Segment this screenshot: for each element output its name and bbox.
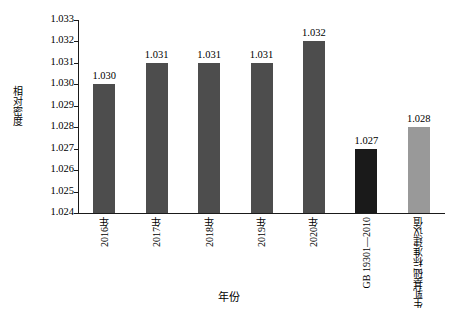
x-axis-tick-label-line: 标准建议值: [413, 217, 424, 267]
x-axis-line: [78, 213, 445, 214]
bar: 1.027: [355, 149, 377, 213]
y-axis-tick-label: 1.026: [50, 163, 74, 174]
bar: 1.031: [146, 63, 168, 213]
y-axis-tick-label: 1.028: [50, 120, 74, 131]
bar: 1.032: [303, 41, 325, 213]
bar-value-label: 1.031: [197, 49, 221, 60]
x-axis-tick-label: GB 19301—2010: [361, 217, 372, 288]
y-axis-tick-label: 1.030: [50, 77, 74, 88]
plot-area: 1.0331.0321.0311.0301.0291.0281.0271.026…: [78, 20, 445, 213]
x-axis-tick-label: 2020年: [308, 217, 319, 247]
y-axis-tick-mark: [74, 84, 79, 85]
y-axis-tick-label: 1.032: [50, 34, 74, 45]
x-axis-tick-label: 2017年: [151, 217, 162, 247]
y-axis-tick-mark: [74, 41, 79, 42]
y-axis-tick-mark: [74, 63, 79, 64]
y-axis-tick-label: 1.031: [50, 56, 74, 67]
y-axis-tick-label: 1.033: [50, 13, 74, 24]
bar-value-label: 1.031: [145, 49, 169, 60]
bar: 1.031: [198, 63, 220, 213]
bar-value-label: 1.028: [407, 113, 431, 124]
x-axis-tick-label: 2019年: [256, 217, 267, 247]
y-axis-tick-mark: [74, 192, 79, 193]
x-axis-title: 年份: [0, 288, 458, 304]
x-axis-tick-label: 2018年: [204, 217, 215, 247]
y-axis-tick-label: 1.029: [50, 99, 74, 110]
bar: 1.028: [408, 127, 430, 213]
chart-figure: 相对密度 1.0331.0321.0311.0301.0291.0281.027…: [0, 0, 458, 319]
bar: 1.031: [251, 63, 273, 213]
bar: 1.030: [93, 84, 115, 213]
y-axis-title: 相对密度: [6, 86, 22, 126]
bar-value-label: 1.032: [302, 27, 326, 38]
bar-value-label: 1.031: [250, 49, 274, 60]
y-axis-tick-mark: [74, 106, 79, 107]
y-axis-tick-label: 1.024: [50, 206, 74, 217]
y-axis-tick-label: 1.027: [50, 142, 74, 153]
x-axis-tick-label: 2016年: [99, 217, 110, 247]
y-axis-line: [78, 20, 79, 213]
y-axis-tick-mark: [74, 20, 79, 21]
y-axis-tick-mark: [74, 213, 79, 214]
bar-value-label: 1.030: [92, 70, 116, 81]
y-axis-tick-mark: [74, 149, 79, 150]
y-axis-tick-mark: [74, 127, 79, 128]
y-axis-tick-label: 1.025: [50, 185, 74, 196]
bar-value-label: 1.027: [355, 135, 379, 146]
y-axis-tick-mark: [74, 170, 79, 171]
